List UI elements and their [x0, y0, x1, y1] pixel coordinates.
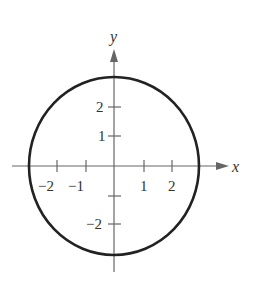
- y-tick-label: 2: [96, 99, 104, 115]
- x-axis-label: x: [231, 158, 239, 175]
- x-axis-arrow-icon: [216, 162, 229, 170]
- x-tick-label: 2: [168, 178, 176, 194]
- x-tick-label: −2: [38, 178, 54, 194]
- x-tick-label: 1: [140, 178, 148, 194]
- y-tick-label: 1: [98, 128, 106, 144]
- x-tick-label: −1: [68, 178, 84, 194]
- circle-graph: x y −2 −1 1 2 2 1 −2: [0, 0, 260, 282]
- y-axis-label: y: [108, 28, 118, 46]
- y-tick-label: −2: [86, 216, 102, 232]
- y-axis-arrow-icon: [110, 49, 118, 62]
